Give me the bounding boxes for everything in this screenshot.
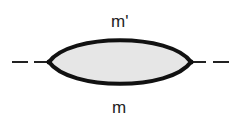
right-vertex (189, 60, 194, 65)
loop-ellipse (49, 40, 191, 84)
loop-diagram: m' m (0, 0, 241, 116)
bottom-mass-label: m (112, 98, 126, 116)
left-vertex (47, 60, 52, 65)
top-mass-label: m' (111, 12, 128, 31)
